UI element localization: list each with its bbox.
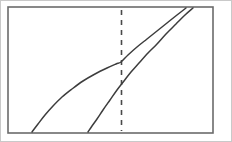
figure-container	[0, 0, 232, 142]
figure-canvas	[0, 0, 232, 142]
plot-frame	[8, 7, 213, 133]
